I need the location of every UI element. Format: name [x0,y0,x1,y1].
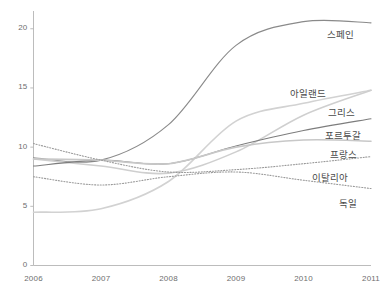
y-axis-tick-label: 10 [2,142,28,151]
y-axis-tick-label: 5 [2,201,28,210]
y-axis-tick-label: 0 [2,260,28,269]
series-label-6: 독일 [339,196,357,210]
chart-axes [30,11,371,266]
x-axis-tick-label: 2011 [349,274,392,283]
x-axis-tick-label: 2008 [147,274,191,283]
x-axis-tick-label: 2007 [79,274,123,283]
series-label-1: 아일랜드 [290,86,326,100]
series-label-2: 그리스 [328,105,355,119]
x-axis-tick-label: 2009 [214,274,258,283]
series-line-5 [34,144,372,173]
line-chart: 05101520200620072008200920102011 스페인아일랜드… [0,0,392,303]
series-label-3: 포르투갈 [325,128,361,142]
y-axis-tick-label: 20 [2,23,28,32]
series-label-5: 이탈리아 [312,170,348,184]
series-label-0: 스페인 [327,27,354,41]
x-axis-tick-label: 2010 [282,274,326,283]
x-axis-tick-label: 2006 [12,274,56,283]
series-label-4: 프랑스 [330,147,357,161]
y-axis-tick-label: 15 [2,82,28,91]
